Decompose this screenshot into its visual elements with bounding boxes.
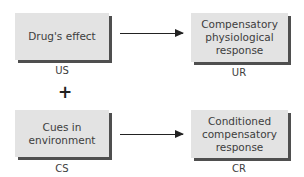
cs-box: Cues in environment (15, 110, 109, 157)
ur-box-text: Compensatory physiological response (201, 18, 278, 57)
arrow-right-icon (120, 134, 183, 135)
ur-label: UR (219, 67, 259, 79)
plus-icon: + (55, 84, 75, 101)
arrow-right-icon (120, 33, 183, 34)
cs-box-text: Cues in environment (29, 121, 96, 147)
us-box: Drug's effect (15, 13, 109, 60)
cs-label: CS (42, 163, 82, 175)
cr-box: Conditioned compensatory response (191, 110, 288, 158)
cr-box-text: Conditioned compensatory response (202, 115, 277, 154)
us-box-text: Drug's effect (28, 30, 95, 43)
cr-label: CR (219, 163, 259, 175)
us-label: US (42, 65, 82, 77)
ur-box: Compensatory physiological response (191, 13, 288, 62)
